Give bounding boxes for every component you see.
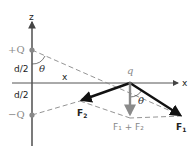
z-axis-label: z: [29, 12, 34, 22]
test-charge-label: q: [127, 65, 133, 76]
negative-charge-dot: [29, 112, 34, 117]
force-f2-label: F2: [77, 108, 87, 119]
x-distance-label: x: [62, 72, 68, 82]
dashed-line-negative-to-q: [32, 101, 80, 115]
positive-charge-dot: [29, 47, 34, 52]
resultant-force-label: F₁ + F₂: [113, 122, 144, 132]
dashed-line-f1-to-sum: [130, 116, 182, 118]
dashed-line-f2-to-sum: [80, 101, 130, 118]
x-axis-label: x: [182, 78, 188, 88]
force-f2-arrow: [82, 83, 130, 100]
angle-label-positive: θ: [39, 63, 45, 74]
upper-distance-label: d/2: [14, 64, 28, 74]
test-charge-dot: [128, 81, 131, 84]
dipole-force-diagram: z x x +Q −Q q d/2 d/2 θ θ F1 F2 F₁ + F₂: [0, 0, 194, 148]
angle-label-q: θ: [138, 95, 144, 106]
negative-charge-label: −Q: [8, 109, 25, 120]
lower-distance-label: d/2: [14, 90, 28, 100]
force-f1-label: F1: [176, 122, 186, 133]
positive-charge-label: +Q: [8, 44, 25, 55]
